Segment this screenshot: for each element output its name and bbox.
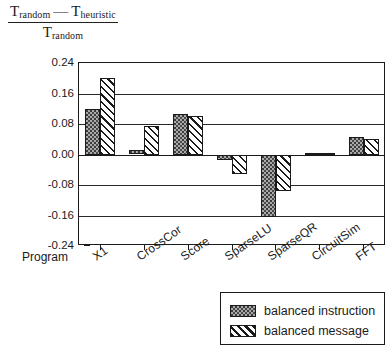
y-axis-tick-label: -0.08 xyxy=(20,178,74,190)
y-axis-tick-label: 0.00 xyxy=(20,148,74,160)
y-axis-tick-mark xyxy=(84,245,90,246)
bar-balanced-instruction[interactable] xyxy=(129,150,144,155)
bar-balanced-instruction[interactable] xyxy=(261,155,276,218)
legend-label: balanced instruction xyxy=(264,304,375,318)
legend-item[interactable]: balanced instruction xyxy=(230,304,375,318)
bar-balanced-message[interactable] xyxy=(144,126,159,155)
bar-balanced-message[interactable] xyxy=(188,116,203,154)
legend-label: balanced message xyxy=(264,324,369,338)
legend-swatch-instruction-icon xyxy=(230,305,256,317)
bar-balanced-instruction[interactable] xyxy=(173,114,188,154)
bar-balanced-message[interactable] xyxy=(232,155,247,174)
bar-balanced-message[interactable] xyxy=(364,139,379,154)
bar-balanced-message[interactable] xyxy=(320,153,335,155)
bar-balanced-instruction[interactable] xyxy=(305,153,320,155)
y-axis-tick-label: 0.08 xyxy=(20,117,74,129)
legend-swatch-message-icon xyxy=(230,325,256,337)
y-axis-tick-label: -0.16 xyxy=(20,209,74,221)
x-axis-label: Program xyxy=(22,250,68,264)
bar-balanced-message[interactable] xyxy=(276,155,291,191)
x-axis-tick-label: X1 xyxy=(90,243,110,263)
chart-legend: balanced instructionbalanced message xyxy=(220,292,385,345)
x-axis: X1CrossCorScoreSparseLUSparseQRCircuitSi… xyxy=(0,0,391,110)
bar-balanced-instruction[interactable] xyxy=(349,137,364,154)
bar-balanced-instruction[interactable] xyxy=(217,155,232,161)
bar-balanced-instruction[interactable] xyxy=(85,109,100,155)
legend-item[interactable]: balanced message xyxy=(230,324,369,338)
